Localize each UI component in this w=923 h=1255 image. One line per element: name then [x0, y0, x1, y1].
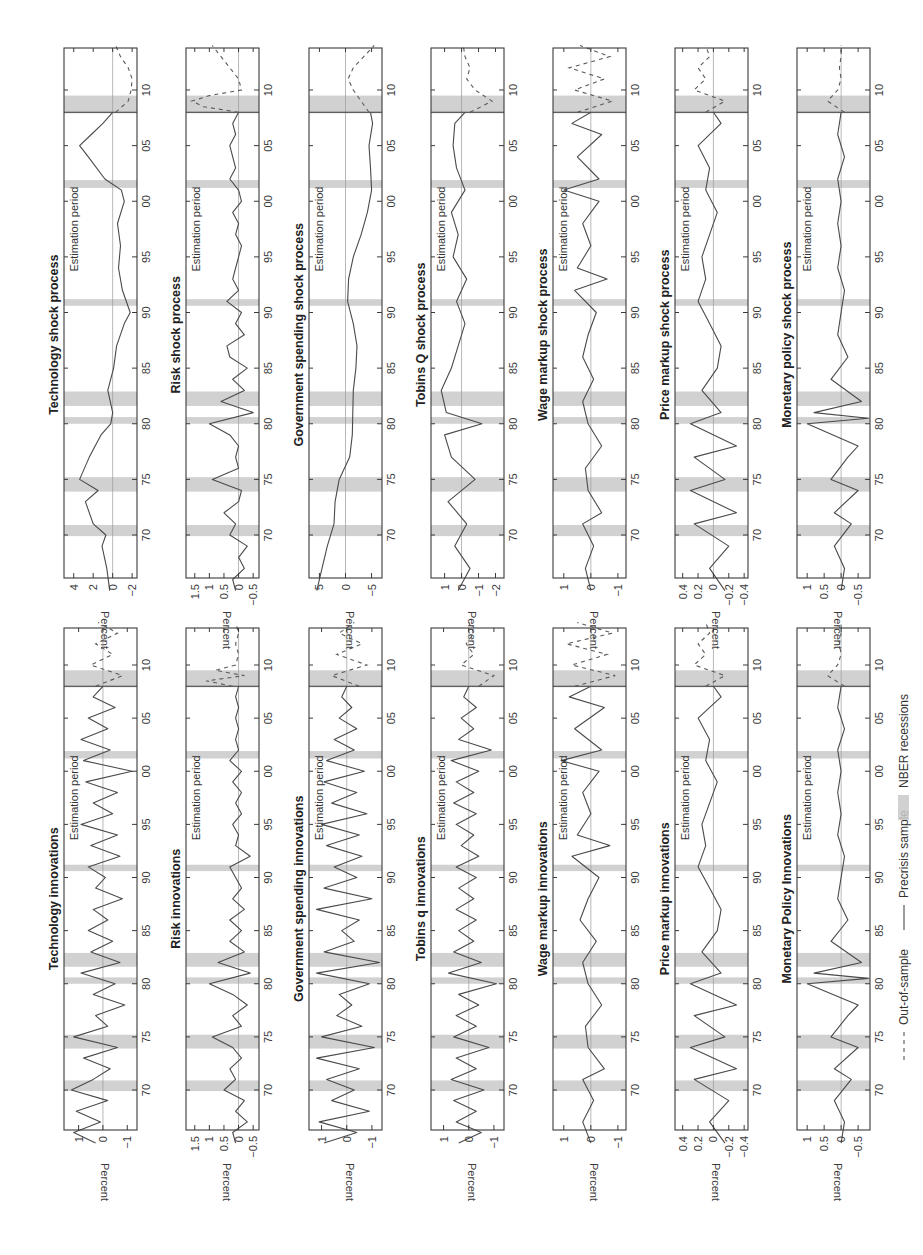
x-tick-label: 05 — [140, 712, 152, 724]
nber-recession-band — [186, 477, 259, 491]
y-tick-label: −1 — [121, 1136, 133, 1149]
nber-recession-band — [186, 865, 259, 871]
nber-recession-band — [431, 865, 504, 871]
nber-recession-band — [431, 525, 504, 536]
y-tick-label: 1 — [203, 584, 215, 590]
nber-recession-band — [675, 391, 748, 405]
y-tick-label: −1 — [612, 584, 624, 597]
x-tick-label: 85 — [507, 362, 519, 374]
nber-recession-band — [797, 391, 870, 405]
nber-recession-band — [797, 417, 870, 424]
panel-title: Government spending shock process — [292, 223, 306, 447]
plot-frame — [553, 48, 626, 578]
y-tick-label: 0 — [835, 584, 847, 590]
x-tick-label: 75 — [385, 1031, 397, 1043]
panel-title: Government spending innovations — [292, 796, 306, 1002]
nber-recession-band — [431, 1080, 504, 1091]
x-tick-label: 70 — [262, 1084, 274, 1096]
nber-recession-band — [675, 953, 748, 967]
x-tick-label: 00 — [140, 765, 152, 777]
y-axis-label: Percent — [588, 611, 600, 649]
panel-shock_process-0: 707580859095000510420−2PercentTechnology… — [47, 46, 152, 649]
estimation-period-label: Estimation period — [679, 187, 691, 272]
x-tick-label: 95 — [873, 251, 885, 263]
panel-title: Monetary policy shock process — [780, 242, 794, 428]
plot-frame — [64, 628, 137, 1130]
x-tick-label: 00 — [385, 195, 397, 207]
x-tick-label: 10 — [140, 659, 152, 671]
panel-innovations-4: 70758085909500051010−1PercentWage markup… — [536, 623, 641, 1201]
estimation-period-label: Estimation period — [801, 755, 813, 840]
x-tick-label: 70 — [873, 1084, 885, 1096]
y-tick-label: 1 — [801, 584, 813, 590]
x-tick-label: 90 — [873, 306, 885, 318]
x-tick-label: 70 — [140, 529, 152, 541]
y-tick-label: 0.4 — [677, 584, 689, 599]
panel-innovations-6: 70758085909500051010.50−0.5PercentMoneta… — [780, 623, 885, 1201]
x-tick-label: 10 — [507, 84, 519, 96]
y-tick-label: −0.5 — [247, 584, 259, 606]
x-tick-label: 05 — [873, 140, 885, 152]
nber-recession-band — [797, 977, 870, 983]
plot-frame — [186, 48, 259, 578]
nber-recession-band — [553, 477, 626, 491]
x-tick-label: 05 — [385, 712, 397, 724]
y-tick-label: −1 — [473, 584, 485, 597]
y-axis-label: Percent — [832, 1163, 844, 1201]
x-tick-label: 75 — [873, 1031, 885, 1043]
y-tick-label: 1 — [438, 1136, 450, 1142]
y-tick-label: 1.5 — [189, 584, 201, 599]
estimation-period-label: Estimation period — [557, 755, 569, 840]
panel-shock_process-2: 70758085909500051050−5PercentGovernment … — [292, 46, 397, 649]
x-tick-label: 00 — [507, 765, 519, 777]
x-tick-label: 90 — [507, 306, 519, 318]
legend-out-of-sample: Out-of-sample — [897, 949, 911, 1025]
x-tick-label: 85 — [751, 362, 763, 374]
x-tick-label: 10 — [629, 84, 641, 96]
nber-recession-band — [675, 96, 748, 114]
x-tick-label: 90 — [751, 871, 763, 883]
y-axis-label: Percent — [221, 1163, 233, 1201]
y-tick-label: 0 — [463, 1136, 475, 1142]
x-tick-label: 00 — [262, 195, 274, 207]
x-tick-label: 95 — [385, 251, 397, 263]
x-tick-label: 75 — [262, 473, 274, 485]
estimation-period-label: Estimation period — [190, 187, 202, 272]
nber-recession-band — [797, 299, 870, 306]
x-tick-label: 00 — [507, 195, 519, 207]
nber-recession-band — [64, 477, 137, 491]
nber-recession-band — [553, 417, 626, 424]
y-tick-label: 1 — [439, 584, 451, 590]
y-tick-label: 0 — [707, 1136, 719, 1142]
nber-recession-band — [309, 670, 382, 687]
y-tick-label: 0 — [341, 1136, 353, 1142]
x-tick-label: 70 — [385, 529, 397, 541]
nber-recession-band — [675, 977, 748, 983]
figure-grid: 707580859095000510420−2PercentTechnology… — [0, 0, 923, 1255]
y-tick-label: 0 — [97, 1136, 109, 1142]
x-tick-label: 80 — [140, 978, 152, 990]
y-tick-label: −2 — [490, 584, 502, 597]
x-tick-label: 95 — [873, 818, 885, 830]
nber-recession-band — [64, 391, 137, 405]
nber-recession-band — [309, 1080, 382, 1091]
y-tick-label: −0.4 — [738, 584, 750, 606]
x-tick-label: 05 — [873, 712, 885, 724]
y-tick-label: −0.5 — [852, 1136, 864, 1158]
x-tick-label: 85 — [262, 362, 274, 374]
nber-recession-band — [797, 477, 870, 491]
x-tick-label: 75 — [140, 1031, 152, 1043]
plot-frame — [675, 628, 748, 1130]
nber-recession-band — [797, 865, 870, 871]
x-tick-label: 05 — [629, 712, 641, 724]
panel-shock_process-3: 70758085909500051010−1−2PercentTobins Q … — [414, 46, 519, 649]
y-tick-label: 0 — [233, 1136, 245, 1142]
nber-recession-band — [309, 865, 382, 871]
x-tick-label: 05 — [262, 140, 274, 152]
nber-recession-band — [431, 670, 504, 687]
plot-frame — [797, 48, 870, 578]
x-tick-label: 70 — [751, 529, 763, 541]
y-tick-label: 0.5 — [218, 1136, 230, 1151]
nber-recession-band — [186, 525, 259, 536]
panel-title: Tobins q innovations — [414, 836, 428, 961]
